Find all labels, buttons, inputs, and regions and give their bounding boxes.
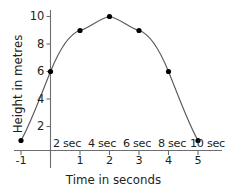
data-points [18,14,200,143]
chart-container: 10 8 6 4 2 2 sec 4 sec 6 sec 8 sec 10 se… [0,0,227,194]
data-point [48,69,53,74]
x-num-label-3: 3 [129,155,149,166]
trajectory-curve [21,17,198,141]
data-point [107,14,112,19]
y-axis-title: Height in metres [12,19,24,149]
y-tick-label-4: 4 [22,94,44,106]
y-tick-label-2: 2 [22,121,44,133]
y-tick-label-8: 8 [22,39,44,51]
x-sec-label-6sec: 6 sec [123,138,151,149]
data-point [166,69,171,74]
data-point [136,28,141,33]
x-sec-label-2sec: 2 sec [53,138,81,149]
x-num-label-neg1: -1 [11,155,31,166]
x-sec-label-10sec: 10 sec [190,138,225,149]
x-num-label-1: 1 [70,155,90,166]
x-num-label-4: 4 [159,155,179,166]
x-sec-label-4sec: 4 sec [88,138,116,149]
y-tick-label-6: 6 [22,66,44,78]
y-tick-label-10: 10 [22,11,44,23]
x-sec-label-8sec: 8 sec [158,138,186,149]
x-num-label-2: 2 [100,155,120,166]
x-axis-title: Time in seconds [0,174,227,186]
x-num-label-5: 5 [188,155,208,166]
data-point [77,28,82,33]
